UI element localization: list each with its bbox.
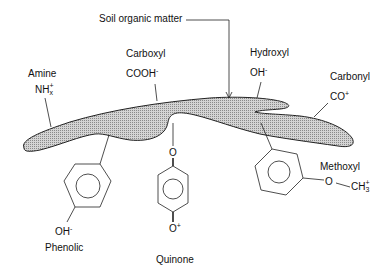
phenolic-formula-sup: - [70, 225, 72, 232]
diagram-canvas [0, 0, 389, 279]
amine-formula-sup: + [49, 82, 53, 89]
methoxyl-formula-sub: 3 [365, 186, 369, 193]
amine-formula: NH+x [35, 85, 55, 95]
carbonyl-name: Carbonyl [330, 72, 370, 82]
methoxyl-formula-base: CH [351, 181, 365, 192]
hydroxyl-formula-sup: - [265, 66, 267, 73]
phenolic-benzene-ring [64, 164, 111, 207]
quinone-bottom-sup: + [177, 222, 181, 229]
hydroxyl-formula-base: OH [250, 67, 265, 78]
methoxyl-benzene-ring [255, 149, 303, 195]
amine-name: Amine [28, 69, 56, 79]
soil-organic-matter-label: Soil organic matter [99, 14, 182, 24]
carbonyl-formula-base: CO [330, 91, 345, 102]
hydroxyl-name: Hydroxyl [250, 48, 289, 58]
carboxyl-formula-sup: - [156, 67, 158, 74]
phenolic-formula-base: OH [55, 226, 70, 237]
amine-formula-sub: x [49, 89, 53, 96]
carboxyl-formula-base: COOH [126, 68, 156, 79]
methoxyl-bridge-atom: O [325, 177, 333, 187]
phenolic-formula: OH- [55, 227, 72, 237]
hydroxyl-formula: OH- [250, 68, 267, 78]
quinone-bottom-atom: O [169, 223, 177, 234]
phenolic-name: Phenolic [45, 243, 83, 253]
methoxyl-name: Methoxyl [320, 162, 360, 172]
quinone-bottom-formula: O+ [169, 224, 181, 234]
methoxyl-formula-sup: + [365, 179, 369, 186]
carbonyl-formula-sup: + [345, 90, 349, 97]
methoxyl-formula: CH+3 [351, 182, 371, 192]
amine-formula-base: NH [35, 84, 49, 95]
soil-organic-matter-blob [23, 97, 353, 151]
carbonyl-formula: CO+ [330, 92, 349, 102]
quinone-benzene-ring [158, 166, 188, 212]
carboxyl-formula: COOH- [126, 69, 158, 79]
carboxyl-name: Carboxyl [126, 49, 165, 59]
quinone-top-atom: O [169, 148, 177, 158]
soil-organic-matter-leader [186, 20, 229, 98]
quinone-name: Quinone [156, 255, 194, 265]
